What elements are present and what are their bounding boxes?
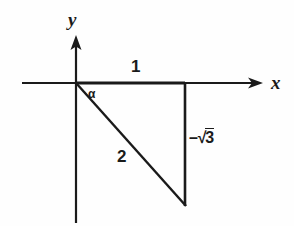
adjacent-side-label: 1 (131, 58, 140, 75)
figure-canvas (0, 0, 294, 226)
minus-sign: – (189, 129, 198, 146)
hypotenuse-label: 2 (117, 148, 126, 165)
y-axis-label: y (68, 10, 76, 29)
trig-triangle-figure: y x 1 2 –√3 α (0, 0, 294, 226)
triangle-hypotenuse (77, 84, 187, 207)
x-axis-label: x (271, 73, 281, 92)
angle-alpha-label: α (88, 88, 95, 100)
opposite-side-label: –√3 (189, 130, 214, 146)
radicand: 3 (205, 128, 214, 146)
